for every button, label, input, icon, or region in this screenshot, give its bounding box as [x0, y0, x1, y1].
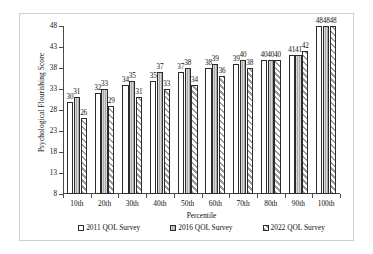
x-tick-label: 90th [292, 199, 305, 208]
bar-group: 414142 [289, 26, 309, 194]
bar-group: 303126 [67, 26, 87, 194]
bar-value-label: 48 [329, 17, 336, 25]
bar-50th-2016 [185, 68, 191, 194]
legend-label: 2011 QOL Survey [86, 223, 140, 232]
bar-group: 353733 [150, 26, 170, 194]
bar-70th-2016 [240, 60, 246, 194]
x-tick-label: 30th [126, 199, 139, 208]
legend-swatch-icon [78, 225, 84, 231]
x-tick [285, 194, 286, 198]
x-tick-label: 10th [70, 199, 83, 208]
bar-value-label: 33 [101, 80, 108, 88]
x-tick-label: 100th [318, 199, 335, 208]
x-tick [229, 194, 230, 198]
y-tick [59, 89, 63, 90]
bar-70th-2022 [247, 68, 253, 194]
bar-100th-2022 [330, 26, 336, 194]
bar-group: 484848 [316, 26, 336, 194]
bar-10th-2011 [67, 102, 73, 194]
bar-group: 373834 [178, 26, 198, 194]
bar-80th-2016 [268, 60, 274, 194]
bar-value-label: 33 [163, 80, 170, 88]
bar-value-label: 38 [246, 59, 253, 67]
bar-90th-2022 [302, 51, 308, 194]
bar-30th-2016 [129, 81, 135, 194]
bar-40th-2016 [157, 72, 163, 194]
bar-value-label: 35 [150, 72, 157, 80]
x-tick [63, 194, 64, 198]
bar-90th-2011 [289, 55, 295, 194]
bar-group: 404040 [261, 26, 281, 194]
legend-swatch-icon [263, 225, 269, 231]
x-tick-label: 20th [98, 199, 111, 208]
y-tick [59, 173, 63, 174]
bar-value-label: 39 [212, 55, 219, 63]
bar-value-label: 38 [184, 59, 191, 67]
bar-group: 343531 [122, 26, 142, 194]
x-axis-title: Percentile [63, 211, 340, 220]
chart-container: Psychological Flourishing Score 81318232… [19, 13, 354, 241]
legend-swatch-icon [170, 225, 176, 231]
x-tick [146, 194, 147, 198]
bar-group: 394038 [233, 26, 253, 194]
bar-group: 323329 [95, 26, 115, 194]
bar-value-label: 37 [156, 63, 163, 71]
y-tick [59, 152, 63, 153]
bar-value-label: 31 [73, 88, 80, 96]
x-tick [174, 194, 175, 198]
y-tick [59, 131, 63, 132]
bar-10th-2022 [81, 118, 87, 194]
y-tick [59, 26, 63, 27]
legend-item[interactable]: 2011 QOL Survey [78, 223, 140, 232]
y-axis-title: Psychological Flourishing Score [37, 38, 46, 168]
legend-item[interactable]: 2016 QOL Survey [170, 223, 232, 232]
bar-value-label: 40 [274, 51, 281, 59]
x-tick-label: 70th [236, 199, 249, 208]
bar-value-label: 29 [108, 97, 115, 105]
bar-60th-2016 [212, 64, 218, 194]
x-tick [91, 194, 92, 198]
chart-legend: 2011 QOL Survey2016 QOL Survey2022 QOL S… [63, 223, 340, 232]
y-tick-label: 23 [50, 127, 57, 135]
x-tick [340, 194, 341, 198]
y-tick-label: 13 [50, 169, 57, 177]
bar-100th-2011 [316, 26, 322, 194]
bar-value-label: 26 [80, 109, 87, 117]
bar-80th-2011 [261, 60, 267, 194]
y-tick-label: 43 [50, 43, 57, 51]
x-tick-label: 80th [264, 199, 277, 208]
bar-20th-2022 [108, 106, 114, 194]
x-tick-label: 40th [153, 199, 166, 208]
bar-50th-2011 [178, 72, 184, 194]
bar-10th-2016 [74, 97, 80, 194]
y-tick-label: 33 [50, 85, 57, 93]
bar-80th-2022 [274, 60, 280, 194]
x-tick [118, 194, 119, 198]
bar-90th-2016 [295, 55, 301, 194]
bar-group: 383936 [205, 26, 225, 194]
x-tick [312, 194, 313, 198]
y-tick [59, 68, 63, 69]
y-tick-label: 28 [50, 106, 57, 114]
bar-value-label: 36 [219, 67, 226, 75]
bar-20th-2011 [95, 93, 101, 194]
bar-value-label: 40 [240, 51, 247, 59]
legend-item[interactable]: 2022 QOL Survey [263, 223, 325, 232]
x-tick-label: 50th [181, 199, 194, 208]
bar-100th-2016 [323, 26, 329, 194]
bar-value-label: 35 [129, 72, 136, 80]
bar-60th-2022 [219, 76, 225, 194]
x-tick [202, 194, 203, 198]
y-tick [59, 110, 63, 111]
bar-30th-2022 [136, 97, 142, 194]
y-tick-label: 18 [50, 148, 57, 156]
bar-value-label: 31 [136, 88, 143, 96]
y-tick [59, 47, 63, 48]
bar-60th-2011 [205, 68, 211, 194]
plot-area: 81318232833384348 3031263233293435313537… [63, 26, 340, 194]
bar-50th-2022 [191, 85, 197, 194]
bar-30th-2011 [122, 85, 128, 194]
bar-value-label: 34 [191, 76, 198, 84]
bar-20th-2016 [101, 89, 107, 194]
y-axis-line [63, 26, 64, 194]
